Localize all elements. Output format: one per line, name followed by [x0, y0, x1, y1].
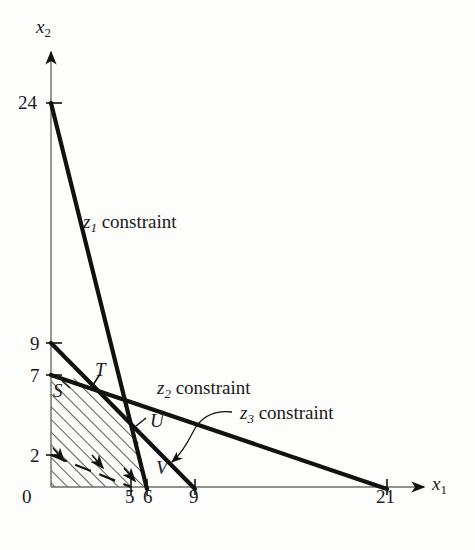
figure-canvas: x2 x1 0 24 9 7 2 5 6 9 21 S T U V z1 con…	[0, 0, 475, 550]
vertex-label-T: T	[95, 360, 106, 379]
vertex-label-V: V	[156, 458, 168, 477]
z2-constraint-label: z2 constraint	[157, 378, 251, 400]
vertex-U-pointer	[136, 418, 146, 426]
z1-constraint-label: z1 constraint	[83, 212, 177, 234]
y-axis-label: x2	[36, 17, 51, 39]
lp-feasible-region-plot	[0, 0, 475, 550]
y-tick-label-9: 9	[30, 334, 40, 353]
y-tick-label-24: 24	[18, 93, 37, 112]
x-axis-label: x1	[432, 474, 447, 496]
x-tick-label-6: 6	[143, 487, 153, 506]
x-tick-label-5: 5	[125, 487, 135, 506]
x-tick-label-9: 9	[189, 487, 199, 506]
origin-tick-label: 0	[22, 487, 32, 506]
vertex-label-U: U	[150, 411, 164, 430]
x-tick-label-21: 21	[376, 487, 395, 506]
y-tick-label-7: 7	[30, 366, 40, 385]
y-tick-label-2: 2	[30, 446, 40, 465]
z3-constraint-label: z3 constraint	[240, 403, 334, 425]
vertex-label-S: S	[53, 381, 63, 400]
